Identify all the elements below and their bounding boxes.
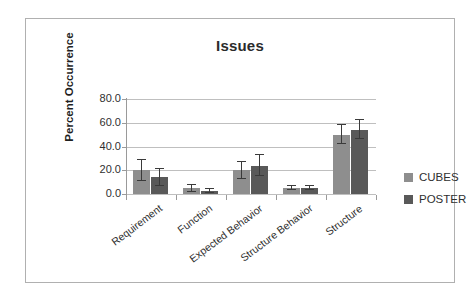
x-axis-tick bbox=[276, 195, 277, 200]
y-axis-tick bbox=[122, 123, 127, 124]
bar-group bbox=[276, 99, 326, 194]
error-bar-cap-bottom bbox=[205, 192, 214, 193]
error-bar-cap-top bbox=[337, 124, 346, 125]
error-bar-cap-bottom bbox=[337, 143, 346, 144]
error-bar-cap-bottom bbox=[305, 189, 314, 190]
chart-title: Issues bbox=[26, 37, 454, 54]
error-bar bbox=[341, 125, 342, 144]
y-axis-tick bbox=[122, 194, 127, 195]
legend-swatch-icon bbox=[404, 195, 413, 204]
legend-item-cubes[interactable]: CUBES bbox=[404, 166, 466, 188]
bar-poster bbox=[251, 166, 268, 195]
error-bar-cap-bottom bbox=[355, 138, 364, 139]
legend-label: POSTER bbox=[419, 193, 466, 205]
y-axis-tick-label: 60.0 bbox=[81, 116, 121, 128]
error-bar-cap-bottom bbox=[187, 191, 196, 192]
bar-cubes bbox=[333, 135, 350, 194]
y-axis-tick bbox=[122, 147, 127, 148]
bar-cubes bbox=[233, 170, 250, 194]
y-axis-tick-label: 0.0 bbox=[81, 187, 121, 199]
error-bar-cap-top bbox=[205, 188, 214, 189]
bar-poster bbox=[301, 188, 318, 194]
x-axis-tick bbox=[126, 195, 127, 200]
bar-poster bbox=[351, 130, 368, 194]
gridline bbox=[126, 194, 376, 195]
error-bar-cap-top bbox=[255, 154, 264, 155]
error-bar-cap-bottom bbox=[137, 180, 146, 181]
bar-cubes bbox=[133, 170, 150, 194]
error-bar bbox=[359, 120, 360, 139]
error-bar-cap-top bbox=[155, 168, 164, 169]
bar-poster bbox=[201, 191, 218, 194]
x-axis-tick-label: Requirement bbox=[109, 202, 164, 248]
error-bar bbox=[259, 155, 260, 176]
error-bar bbox=[241, 162, 242, 179]
error-bar-cap-top bbox=[355, 119, 364, 120]
y-axis-tick bbox=[122, 170, 127, 171]
error-bar-cap-bottom bbox=[237, 178, 246, 179]
legend-label: CUBES bbox=[419, 171, 459, 183]
chart-legend: CUBESPOSTER bbox=[404, 166, 466, 210]
y-axis-tick bbox=[122, 99, 127, 100]
error-bar-cap-top bbox=[305, 185, 314, 186]
plot-area bbox=[126, 99, 376, 194]
y-axis-tick-label: 40.0 bbox=[81, 140, 121, 152]
y-axis-title: Percent Occurrence bbox=[63, 22, 75, 152]
x-axis-tick-label: Structure bbox=[323, 202, 364, 237]
y-axis-tick-label: 20.0 bbox=[81, 163, 121, 175]
bar-poster bbox=[151, 177, 168, 194]
bar-group bbox=[226, 99, 276, 194]
legend-swatch-icon bbox=[404, 173, 413, 182]
y-axis-tick-labels: 0.020.040.060.080.0 bbox=[76, 99, 121, 194]
error-bar-cap-top bbox=[187, 184, 196, 185]
error-bar-cap-top bbox=[137, 159, 146, 160]
bar-cubes bbox=[283, 188, 300, 194]
chart-frame: Issues Percent Occurrence 0.020.040.060.… bbox=[25, 18, 455, 283]
legend-item-poster[interactable]: POSTER bbox=[404, 188, 466, 210]
error-bar-cap-bottom bbox=[287, 189, 296, 190]
bar-group bbox=[176, 99, 226, 194]
error-bar bbox=[159, 169, 160, 186]
x-axis-tick-label: Function bbox=[175, 202, 214, 236]
bar-cubes bbox=[183, 188, 200, 194]
error-bar-cap-bottom bbox=[255, 175, 264, 176]
error-bar-cap-top bbox=[237, 161, 246, 162]
bar-group bbox=[326, 99, 376, 194]
error-bar-cap-top bbox=[287, 185, 296, 186]
error-bar-cap-bottom bbox=[155, 185, 164, 186]
bar-group bbox=[126, 99, 176, 194]
x-axis-tick bbox=[326, 195, 327, 200]
error-bar bbox=[141, 160, 142, 181]
x-axis-tick bbox=[226, 195, 227, 200]
x-axis-tick bbox=[376, 195, 377, 200]
y-axis-tick-label: 80.0 bbox=[81, 92, 121, 104]
x-axis-tick bbox=[176, 195, 177, 200]
